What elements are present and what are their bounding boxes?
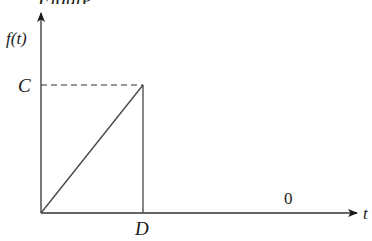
c-label: C	[18, 75, 31, 96]
ramp-segment	[41, 85, 143, 213]
y-axis-label: f(t)	[6, 29, 27, 48]
zero-label: 0	[284, 189, 293, 208]
x-axis-label: t	[363, 204, 369, 223]
caption-fragment: Figure	[37, 0, 92, 11]
d-label: D	[134, 218, 149, 239]
function-diagram: Figure f(t) C D 0 t	[0, 0, 372, 241]
caption-text: Figure	[37, 0, 92, 11]
